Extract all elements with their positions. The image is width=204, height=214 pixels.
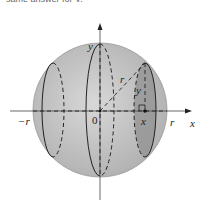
sphere-diagram: y x −r 0 r r x y [0, 0, 204, 214]
origin-point [99, 110, 102, 113]
slice-x-label: x [140, 115, 146, 127]
right-r-label: r [170, 116, 175, 128]
y-axis-label: y [87, 40, 93, 52]
origin-label: 0 [92, 114, 98, 126]
slice-y-label: y [135, 84, 141, 96]
y-axis-arrow-icon [98, 23, 103, 30]
x-point [143, 109, 147, 113]
x-axis-arrow-icon [185, 109, 192, 114]
radius-label: r [120, 73, 125, 85]
neg-r-label: −r [18, 115, 30, 127]
x-axis-label: x [189, 117, 195, 129]
